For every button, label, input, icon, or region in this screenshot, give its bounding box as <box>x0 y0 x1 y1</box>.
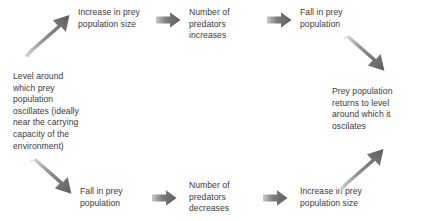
node-number-of-predators-decreases: Number of predators decreases <box>189 180 259 215</box>
arrow-down-right-bottom-left-icon <box>28 155 78 203</box>
node-level-around-which-prey-population-oscillates: Level around which prey population oscil… <box>13 71 121 152</box>
arrow-right-increase-to-predators-icon <box>156 11 182 29</box>
arrow-right-fall-to-predators-icon <box>152 189 178 207</box>
node-fall-in-prey-population-bottom: Fall in prey population <box>80 186 154 209</box>
arrow-right-predators-to-fall-icon <box>267 11 293 29</box>
node-prey-population-returns-to-level: Prey population returns to level around … <box>332 86 426 132</box>
arrow-right-predators-to-increase-icon <box>263 189 289 207</box>
node-increase-prey-population-size-top: Increase in prey population size <box>78 7 164 30</box>
arrow-down-right-top-right-icon <box>341 32 391 80</box>
node-number-of-predators-increases: Number of predators increases <box>189 7 259 42</box>
arrow-up-right-top-left-icon <box>24 12 74 60</box>
arrow-up-right-bottom-right-icon <box>338 146 388 194</box>
node-fall-in-prey-population-top: Fall in prey population <box>300 7 372 30</box>
diagram-canvas: Increase in prey population size Number … <box>0 0 435 221</box>
